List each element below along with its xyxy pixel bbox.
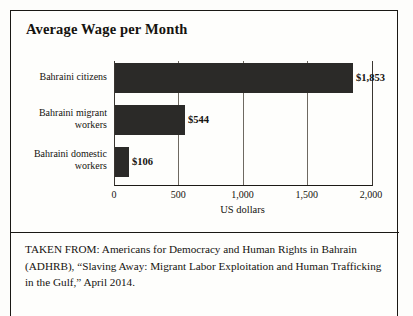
bar-value-2: $106 <box>132 156 153 167</box>
xtick-label-4: 2,000 <box>360 189 383 200</box>
bar-value-1: $544 <box>188 114 209 125</box>
xtick-label-0: 0 <box>112 189 117 200</box>
xtick-label-2: 1,000 <box>231 189 254 200</box>
plot-area <box>114 61 373 186</box>
source-note: TAKEN FROM: Americans for Democracy and … <box>25 241 385 291</box>
category-label-1: Bahraini migrant workers <box>39 107 107 131</box>
chart-region: Bahraini citizens Bahraini migrant worke… <box>11 49 399 232</box>
chart-title: Average Wage per Month <box>26 21 188 38</box>
x-axis-title: US dollars <box>114 204 371 215</box>
caption-divider <box>11 232 399 233</box>
bar-value-0: $1,853 <box>356 72 385 83</box>
bar-bahraini-migrant-workers <box>115 105 185 135</box>
xtick-label-1: 500 <box>171 189 186 200</box>
category-label-2: Bahraini domestic workers <box>34 148 107 172</box>
xtick-label-3: 1,500 <box>296 189 319 200</box>
category-label-0: Bahraini citizens <box>40 71 107 83</box>
bar-bahraini-domestic-workers <box>115 147 129 177</box>
figure-box: Average Wage per Month Bahraini citizens… <box>10 10 398 316</box>
bar-bahraini-citizens <box>115 63 353 93</box>
